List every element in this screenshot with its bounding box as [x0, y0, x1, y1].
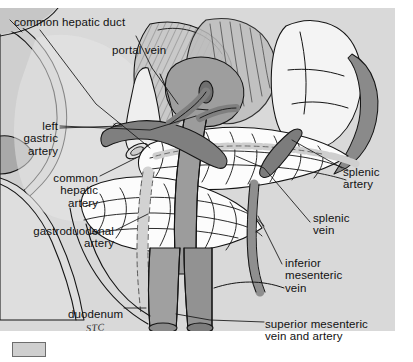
duodenum-cut-left [149, 323, 177, 331]
label-common-hepatic-artery: common hepatic artery [0, 172, 98, 209]
label-splenic-artery: splenic artery [343, 166, 380, 191]
label-inferior-mesenteric-vein: inferior mesenteric vein [285, 257, 342, 294]
artist-signature: STC [86, 321, 105, 331]
label-gastroduodenal-artery: gastroduodenal artery [0, 225, 114, 250]
label-duodenum: duodenum [68, 308, 123, 320]
label-common-hepatic-duct: common hepatic duct [14, 16, 125, 28]
color-swatch-box [12, 342, 46, 357]
duodenum-tube-left [149, 248, 181, 330]
label-splenic-vein: splenic vein [313, 212, 350, 237]
label-superior-mesenteric-vein-and-artery: superior mesenteric vein and artery [265, 318, 368, 343]
duodenum-cut-right [187, 323, 213, 331]
gastroduodenal-artery [142, 172, 148, 314]
label-left-gastric-artery: left gastric artery [0, 120, 58, 157]
figure-canvas: STC common hepatic duct portal vein left… [0, 0, 413, 362]
label-portal-vein: portal vein [112, 44, 166, 56]
